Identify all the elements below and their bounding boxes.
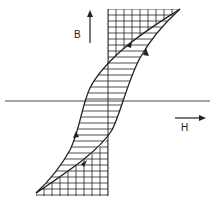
hysteresis-diagram: B H <box>0 0 217 202</box>
h-axis-label: H <box>181 123 188 133</box>
b-axis-label: B <box>74 30 81 40</box>
hysteresis-svg <box>0 0 217 202</box>
b-axis-arrowhead-icon <box>87 10 93 17</box>
h-axis-arrowhead-icon <box>199 115 206 121</box>
